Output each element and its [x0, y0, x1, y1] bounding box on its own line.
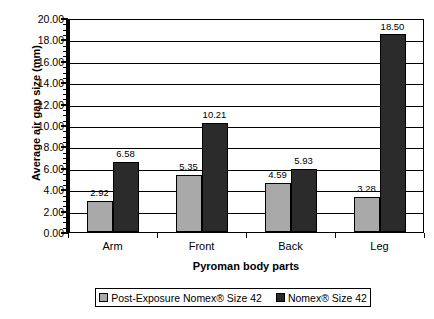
bar [291, 169, 317, 232]
y-minor-tickmark [63, 228, 67, 229]
y-minor-tickmark [63, 30, 67, 31]
y-minor-tickmark [63, 67, 67, 68]
y-axis-tick-labels: 20.0018.0016.0014.0012.0010.008.006.004.… [0, 0, 64, 319]
y-minor-tickmark [63, 153, 67, 154]
y-minor-tickmark [63, 99, 67, 100]
y-tick-label: 14.00 [20, 78, 64, 88]
bar [87, 201, 113, 232]
y-tick-label: 10.00 [20, 121, 64, 131]
legend-swatch-icon [276, 293, 285, 302]
y-tickmark [61, 61, 67, 63]
x-tickmark [157, 233, 158, 238]
bar [354, 197, 380, 232]
bar-value-label: 18.50 [369, 22, 417, 32]
y-minor-tickmark [63, 196, 67, 197]
x-category-label: Leg [335, 240, 424, 252]
bar-value-label: 6.58 [102, 149, 150, 159]
x-tickmark [335, 233, 336, 238]
bar-chart: Average air gap size (mm) 20.0018.0016.0… [0, 0, 434, 319]
y-minor-tickmark [63, 78, 67, 79]
y-minor-tickmark [63, 56, 67, 57]
plot-area: 2.926.585.3510.214.595.933.2818.50 [68, 19, 424, 233]
y-tick-label: 18.00 [20, 35, 64, 45]
x-tickmark [424, 233, 425, 238]
y-minor-tickmark [63, 158, 67, 159]
y-minor-tickmark [63, 185, 67, 186]
bars-layer: 2.926.585.3510.214.595.933.2818.50 [70, 20, 423, 232]
y-tickmark [61, 39, 67, 41]
y-tick-label: 16.00 [20, 57, 64, 67]
y-tick-label: 6.00 [20, 164, 64, 174]
x-axis-title: Pyroman body parts [68, 260, 424, 272]
y-tick-label: 2.00 [20, 207, 64, 217]
y-tick-label: 8.00 [20, 142, 64, 152]
legend-label: Nomex® Size 42 [288, 292, 367, 304]
bar [113, 162, 139, 232]
x-category-label: Front [157, 240, 246, 252]
y-minor-tickmark [63, 89, 67, 90]
bar [176, 175, 202, 232]
x-axis-category-labels: ArmFrontBackLeg [68, 240, 424, 256]
y-minor-tickmark [63, 121, 67, 122]
y-minor-tickmark [63, 51, 67, 52]
y-minor-tickmark [63, 163, 67, 164]
y-minor-tickmark [63, 131, 67, 132]
y-minor-tickmark [63, 24, 67, 25]
y-tickmark [61, 232, 67, 234]
x-tickmark [246, 233, 247, 238]
y-minor-tickmark [63, 201, 67, 202]
y-tickmark [61, 146, 67, 148]
bar [265, 183, 291, 232]
legend-swatch-icon [99, 293, 108, 302]
bar-value-label: 5.93 [280, 156, 328, 166]
y-minor-tickmark [63, 94, 67, 95]
y-minor-tickmark [63, 222, 67, 223]
x-tickmark [68, 233, 69, 238]
legend-label: Post-Exposure Nomex® Size 42 [111, 292, 262, 304]
bar [202, 123, 228, 232]
y-minor-tickmark [63, 217, 67, 218]
legend-item: Nomex® Size 42 [276, 292, 367, 304]
x-axis-tickmarks [68, 233, 424, 239]
y-tick-label: 0.00 [20, 228, 64, 238]
x-category-label: Arm [68, 240, 157, 252]
y-tickmark [61, 82, 67, 84]
y-tick-label: 4.00 [20, 185, 64, 195]
chart-legend: Post-Exposure Nomex® Size 42Nomex® Size … [95, 288, 371, 307]
y-minor-tickmark [63, 137, 67, 138]
x-category-label: Back [246, 240, 335, 252]
y-minor-tickmark [63, 206, 67, 207]
y-minor-tickmark [63, 142, 67, 143]
y-minor-tickmark [63, 174, 67, 175]
bar-value-label: 10.21 [191, 110, 239, 120]
y-tickmark [61, 125, 67, 127]
bar [380, 34, 406, 232]
y-minor-tickmark [63, 110, 67, 111]
y-minor-tickmark [63, 46, 67, 47]
y-tickmark [61, 189, 67, 191]
y-tick-label: 12.00 [20, 100, 64, 110]
y-minor-tickmark [63, 115, 67, 116]
y-tickmark [61, 18, 67, 20]
y-minor-tickmark [63, 35, 67, 36]
y-minor-tickmark [63, 73, 67, 74]
legend-item: Post-Exposure Nomex® Size 42 [99, 292, 262, 304]
y-tick-label: 20.00 [20, 14, 64, 24]
y-tickmark [61, 211, 67, 213]
y-tickmark [61, 168, 67, 170]
y-tickmark [61, 104, 67, 106]
y-minor-tickmark [63, 180, 67, 181]
